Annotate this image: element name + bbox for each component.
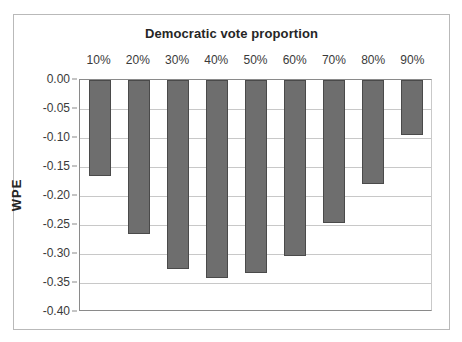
y-axis-tickmark-3 [72, 166, 77, 167]
chart-figure: Democratic vote proportion 10%20%30%40%5… [0, 0, 462, 342]
bar [206, 80, 228, 278]
x-axis-label-6: 70% [314, 50, 353, 70]
bar [401, 80, 423, 135]
bar-slot-6 [314, 80, 353, 310]
y-axis-tickmark-8 [72, 311, 77, 312]
x-axis-label-8: 90% [393, 50, 432, 70]
y-axis-tick-2: -0.10 [43, 130, 70, 144]
bar-slot-3 [197, 80, 236, 310]
y-axis-tickmark-2 [72, 137, 77, 138]
y-axis-tickmark-0 [72, 79, 77, 80]
bar [245, 80, 267, 273]
x-axis-label-7: 80% [354, 50, 393, 70]
y-axis-tick-8: -0.40 [43, 304, 70, 318]
y-axis-tickmark-7 [72, 282, 77, 283]
bar-series [80, 80, 431, 310]
x-axis-label-4: 50% [236, 50, 275, 70]
plot-area [79, 79, 432, 311]
y-axis-tick-6: -0.30 [43, 246, 70, 260]
bar-slot-2 [158, 80, 197, 310]
bar [128, 80, 150, 234]
bar [167, 80, 189, 269]
chart-title: Democratic vote proportion [13, 26, 450, 41]
x-axis-category-labels: 10%20%30%40%50%60%70%80%90% [79, 50, 432, 70]
y-axis-tickmark-1 [72, 108, 77, 109]
bar-slot-8 [392, 80, 431, 310]
y-axis-tick-7: -0.35 [43, 275, 70, 289]
y-axis-tick-labels: 0.00-0.05-0.10-0.15-0.20-0.25-0.30-0.35-… [28, 79, 77, 311]
bar-slot-4 [236, 80, 275, 310]
bar-slot-0 [80, 80, 119, 310]
y-axis-tickmark-4 [72, 195, 77, 196]
bar-slot-5 [275, 80, 314, 310]
bar-slot-1 [119, 80, 158, 310]
x-axis-label-5: 60% [275, 50, 314, 70]
y-axis-tick-5: -0.25 [43, 217, 70, 231]
bar [284, 80, 306, 256]
y-axis-title: WPE [9, 179, 24, 212]
x-axis-label-3: 40% [197, 50, 236, 70]
y-axis-tickmark-6 [72, 253, 77, 254]
bar [323, 80, 345, 223]
x-axis-label-2: 30% [157, 50, 196, 70]
x-axis-label-1: 20% [118, 50, 157, 70]
bar [89, 80, 111, 176]
y-axis-tick-1: -0.05 [43, 101, 70, 115]
y-axis-tick-4: -0.20 [43, 188, 70, 202]
y-axis-tickmark-5 [72, 224, 77, 225]
y-axis-tick-0: 0.00 [47, 72, 70, 86]
x-axis-label-0: 10% [79, 50, 118, 70]
y-axis-tick-3: -0.15 [43, 159, 70, 173]
bar [362, 80, 384, 184]
bar-slot-7 [353, 80, 392, 310]
